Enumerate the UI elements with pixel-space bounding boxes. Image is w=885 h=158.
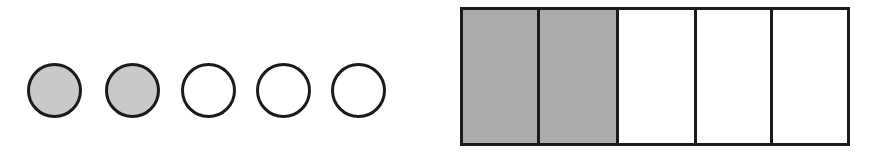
circle-2 bbox=[105, 63, 160, 118]
fraction-figure bbox=[0, 0, 885, 158]
circle-5 bbox=[331, 63, 386, 118]
bar-cell-3 bbox=[619, 10, 697, 143]
bar-cell-4 bbox=[697, 10, 774, 143]
circle-3 bbox=[181, 63, 236, 118]
bar-cell-1 bbox=[463, 10, 540, 143]
bar-cell-5 bbox=[773, 10, 847, 143]
circle-set bbox=[0, 0, 420, 158]
circle-4 bbox=[256, 63, 311, 118]
bar-cell-2 bbox=[540, 10, 620, 143]
circle-1 bbox=[27, 63, 82, 118]
fraction-bar bbox=[460, 7, 850, 146]
